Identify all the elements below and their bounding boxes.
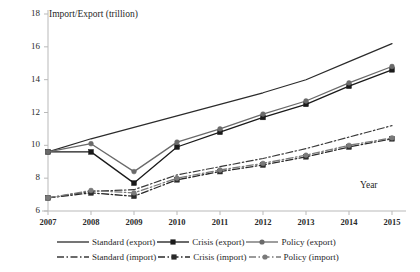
legend-item[interactable]: Crisis (export) — [156, 236, 245, 248]
plot-area — [0, 0, 420, 272]
x-tick-label: 2013 — [288, 217, 324, 227]
legend-swatch-line — [56, 251, 90, 263]
data-point-marker — [89, 150, 94, 155]
x-tick-label: 2009 — [116, 217, 152, 227]
legend-item[interactable]: Policy (export) — [245, 236, 336, 248]
series-line — [48, 67, 392, 172]
y-tick-label: 18 — [22, 8, 40, 18]
legend-label: Crisis (import) — [193, 252, 246, 262]
data-point-marker — [132, 181, 137, 186]
x-axis-title: Year — [360, 180, 378, 190]
data-point-marker — [46, 196, 51, 201]
data-point-marker — [390, 64, 395, 69]
legend-label: Crisis (export) — [192, 237, 244, 247]
y-tick-label: 6 — [22, 205, 40, 215]
y-axis-title: Import/Export (trillion) — [49, 9, 138, 19]
x-tick-label: 2011 — [202, 217, 238, 227]
data-point-marker — [261, 112, 266, 117]
data-point-marker — [390, 136, 395, 141]
legend-swatch-square — [156, 236, 190, 248]
x-tick-label: 2012 — [245, 217, 281, 227]
x-tick-label: 2015 — [374, 217, 410, 227]
legend-label: Standard (import) — [92, 252, 156, 262]
x-tick-label: 2010 — [159, 217, 195, 227]
legend-swatch-circle — [248, 251, 282, 263]
chart-legend: Standard (export)Crisis (export)Policy (… — [56, 234, 408, 264]
data-point-marker — [175, 140, 180, 145]
axes — [42, 10, 406, 215]
y-tick-label: 14 — [22, 74, 40, 84]
legend-label: Policy (import) — [284, 252, 339, 262]
data-point-marker — [304, 153, 309, 158]
x-tick-label: 2008 — [73, 217, 109, 227]
series-lines — [46, 44, 395, 201]
y-tick-label: 8 — [22, 172, 40, 182]
legend-swatch-square — [157, 251, 191, 263]
y-tick-label: 16 — [22, 41, 40, 51]
data-point-marker — [89, 188, 94, 193]
legend-label: Policy (export) — [281, 237, 335, 247]
legend-label: Standard (export) — [92, 237, 155, 247]
data-point-marker — [347, 143, 352, 148]
data-point-marker — [347, 81, 352, 86]
series-line — [48, 44, 392, 152]
legend-item[interactable]: Crisis (import) — [157, 251, 247, 263]
data-point-marker — [218, 126, 223, 131]
y-tick-label: 10 — [22, 139, 40, 149]
legend-item[interactable]: Policy (import) — [248, 251, 340, 263]
x-tick-label: 2007 — [30, 217, 66, 227]
data-point-marker — [304, 99, 309, 104]
chart-container: Import/Export (trillion) Year 6810121416… — [0, 0, 420, 272]
legend-row-export: Standard (export)Crisis (export)Policy (… — [56, 234, 408, 249]
legend-item[interactable]: Standard (import) — [56, 251, 157, 263]
data-point-marker — [46, 150, 51, 155]
legend-swatch-line — [56, 236, 90, 248]
y-tick-label: 12 — [22, 107, 40, 117]
legend-swatch-circle — [245, 236, 279, 248]
data-point-marker — [175, 176, 180, 181]
legend-row-import: Standard (import)Crisis (import)Policy (… — [56, 249, 408, 264]
data-point-marker — [132, 169, 137, 174]
data-point-marker — [132, 191, 137, 196]
data-point-marker — [175, 145, 180, 150]
legend-item[interactable]: Standard (export) — [56, 236, 156, 248]
data-point-marker — [89, 141, 94, 146]
data-point-marker — [261, 161, 266, 166]
x-tick-label: 2014 — [331, 217, 367, 227]
data-point-marker — [218, 168, 223, 173]
